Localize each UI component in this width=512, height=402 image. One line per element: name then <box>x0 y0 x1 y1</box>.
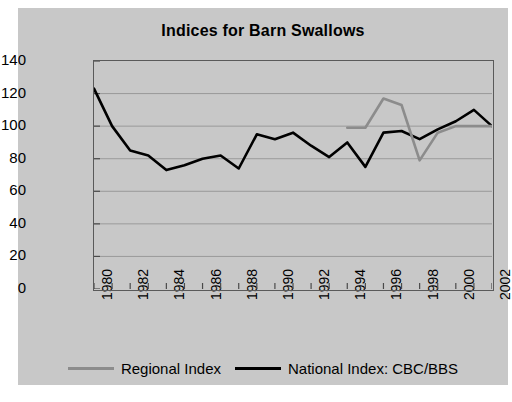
chart-title: Indices for Barn Swallows <box>18 22 508 40</box>
legend-swatch <box>68 367 114 370</box>
y-axis-tick-label: 80 <box>0 150 26 165</box>
y-axis-tick-label: 100 <box>0 117 26 132</box>
plot-svg <box>94 61 492 289</box>
y-axis-tick-label: 0 <box>0 280 26 295</box>
x-axis-tick-label: 2002 <box>497 269 512 300</box>
y-axis-tick-label: 60 <box>0 182 26 197</box>
legend-item[interactable]: National Index: CBC/BBS <box>235 360 458 377</box>
y-axis-tick-label: 40 <box>0 215 26 230</box>
y-axis-tick-label: 20 <box>0 247 26 262</box>
legend-label: National Index: CBC/BBS <box>288 360 458 377</box>
series-line <box>94 89 492 170</box>
y-axis-tick-label: 140 <box>0 52 26 67</box>
legend-swatch <box>235 367 281 370</box>
chart-legend: Regional IndexNational Index: CBC/BBS <box>18 360 508 377</box>
plot-area <box>93 60 494 291</box>
chart-canvas: Indices for Barn Swallows Index: 2002=10… <box>18 8 508 385</box>
legend-label: Regional Index <box>121 360 221 377</box>
legend-item[interactable]: Regional Index <box>68 360 221 377</box>
series-line <box>347 98 492 160</box>
y-axis-tick-label: 120 <box>0 85 26 100</box>
